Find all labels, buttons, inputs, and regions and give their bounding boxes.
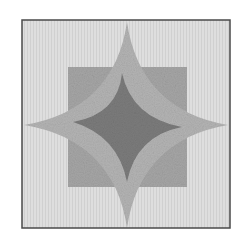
quilt-block-artwork (0, 0, 244, 244)
